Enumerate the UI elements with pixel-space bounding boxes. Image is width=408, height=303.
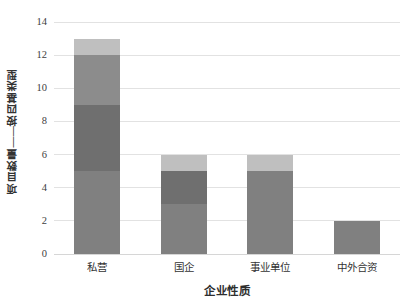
y-tick-label: 8	[42, 116, 47, 127]
bar-group[interactable]: 中外合资	[334, 221, 380, 254]
bar-group[interactable]: 事业单位	[247, 155, 293, 254]
y-axis-title: 项目数量——按四基类型	[0, 0, 24, 262]
bar-segment[interactable]	[74, 39, 120, 56]
y-tick-label: 2	[42, 216, 47, 227]
y-tick-label: 4	[42, 182, 47, 193]
x-tick-label: 中外合资	[337, 263, 377, 274]
y-tick-label: 12	[37, 50, 48, 61]
gridline-14	[54, 22, 400, 23]
bar-segment[interactable]	[161, 155, 207, 172]
x-axis-title: 企业性质	[54, 282, 400, 298]
bar-segment[interactable]	[334, 221, 380, 254]
y-tick-label: 6	[42, 149, 47, 160]
bar-segment[interactable]	[161, 171, 207, 204]
y-tick-label: 14	[37, 17, 48, 28]
x-tick-label: 国企	[174, 263, 194, 274]
y-tick-label: 10	[37, 83, 48, 94]
bar-chart: 项目数量——按四基类型 02468101214私营国企事业单位中外合资 企业性质	[0, 0, 408, 303]
plot-area: 02468101214私营国企事业单位中外合资	[54, 22, 400, 254]
bar-segment[interactable]	[74, 171, 120, 254]
x-tick-label: 事业单位	[250, 263, 290, 274]
bar-segment[interactable]	[74, 105, 120, 171]
x-axis-title-label: 企业性质	[204, 285, 250, 297]
bar-group[interactable]: 国企	[161, 155, 207, 254]
y-tick-label: 0	[42, 249, 47, 260]
bar-group[interactable]: 私营	[74, 39, 120, 254]
bar-segment[interactable]	[247, 155, 293, 172]
bar-segment[interactable]	[161, 204, 207, 254]
bar-segment[interactable]	[247, 171, 293, 254]
bar-segment[interactable]	[74, 55, 120, 105]
x-tick-label: 私营	[87, 263, 107, 274]
y-axis-title-label: 项目数量——按四基类型	[5, 68, 20, 194]
